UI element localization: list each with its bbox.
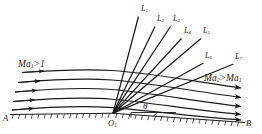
label-mach-downstream: Ma2>Ma1 [204, 74, 242, 84]
label-expansion-line-L5: L5 [203, 27, 210, 36]
label-point-a: A [3, 114, 8, 123]
label-expansion-line-L3: L3 [173, 15, 180, 24]
label-mach-upstream: Ma1>1 [18, 60, 45, 70]
streamline-2-arrow-seg [18, 81, 40, 83]
lower-wall [10, 113, 245, 126]
expansion-line-L6 [113, 63, 204, 113]
label-expansion-line-L4: L4 [184, 27, 191, 36]
label-point-b: B [246, 119, 251, 128]
expansion-wave-lines [113, 17, 234, 114]
label-expansion-line-L1: L1 [141, 5, 148, 14]
label-expansion-line-L7: L7 [235, 53, 242, 62]
label-expansion-line-L2: L2 [157, 15, 164, 24]
streamline-4 [13, 98, 241, 114]
label-corner-o1: O1 [108, 119, 117, 128]
wall-hatching-right [116, 114, 239, 127]
label-angle-theta: θ [143, 102, 147, 111]
streamline-1-arrow-seg [22, 71, 44, 73]
expansion-fan-figure: L1 L2 L3 L4 L5 L6 L7 Ma1>1 Ma2>Ma1 A O1 … [0, 0, 262, 134]
expansion-line-L7 [113, 64, 234, 113]
label-expansion-line-L6: L6 [205, 52, 212, 61]
